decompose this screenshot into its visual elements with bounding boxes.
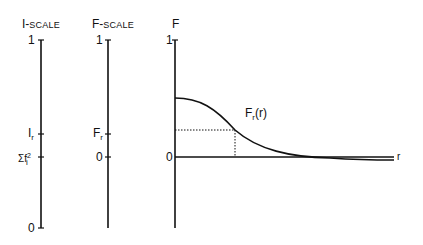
f-plot-y-label: F: [172, 18, 179, 30]
diagram-canvas: [0, 0, 423, 245]
i-scale-tick-ir: Ir: [28, 127, 34, 144]
f-scale-axis: [105, 40, 111, 228]
i-scale-tick-0: 0: [28, 222, 35, 234]
i-scale-axis: [38, 40, 44, 228]
f-scale-title: F-SCALE: [92, 18, 134, 31]
f-scale-tick-1: 1: [96, 34, 103, 46]
i-scale-title: I-SCALE: [22, 18, 60, 31]
fr-curve: [175, 98, 394, 160]
f-scale-tick-0: 0: [96, 151, 103, 163]
reference-dotted-lines: [175, 130, 235, 157]
f-plot-tick-1: 1: [166, 34, 173, 46]
fr-curve-label: Fr(r): [245, 107, 267, 124]
f-plot-axes: [172, 40, 394, 228]
i-scale-tick-1: 1: [28, 34, 35, 46]
f-plot-tick-0: 0: [166, 151, 173, 163]
f-plot-x-label: r: [397, 151, 400, 163]
f-scale-tick-fr: Fr: [93, 127, 103, 144]
i-scale-tick-sum-f-squared: Σf2i: [18, 150, 28, 169]
